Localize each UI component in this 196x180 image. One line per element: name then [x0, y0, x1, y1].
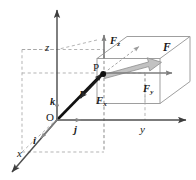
component-Fy-base: F — [143, 83, 150, 94]
unit-vector-label-k: k — [50, 97, 55, 108]
component-label-Fx: Fx — [96, 96, 107, 108]
F-vector-arrow-shape — [104, 58, 162, 79]
unit-vector-label-j: j — [74, 125, 77, 136]
component-Fx-sub: x — [103, 100, 107, 108]
vector-diagram-figure: z y x O P i j k r F Fx Fy Fz — [0, 0, 196, 180]
point-p-marker — [100, 71, 106, 77]
force-vector-F — [104, 58, 162, 79]
axis-label-x: x — [17, 148, 22, 159]
box-edge-front-br-to-back-br — [160, 82, 190, 104]
diagram-canvas — [0, 0, 196, 180]
axis-label-y: y — [140, 124, 145, 135]
vector-label-F: F — [163, 42, 171, 54]
vector-label-r: r — [80, 88, 84, 99]
component-Fz-base: F — [110, 35, 117, 46]
axis-label-z: z — [45, 42, 49, 53]
component-label-Fz: Fz — [110, 36, 120, 48]
dashed-diagonal-lower — [22, 119, 57, 152]
point-label-origin: O — [46, 112, 54, 123]
component-Fz-sub: z — [117, 40, 120, 48]
point-label-p: P — [93, 62, 99, 73]
component-Fx-base: F — [96, 95, 103, 106]
unit-vector-label-i: i — [33, 136, 36, 147]
component-label-Fy: Fy — [143, 84, 153, 96]
dashed-depth-top — [57, 40, 97, 50]
component-Fy-sub: y — [150, 88, 153, 96]
